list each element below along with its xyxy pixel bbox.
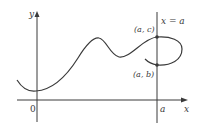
vertical-line-label: x = a <box>161 16 185 26</box>
curve-diagram: y x 0 a x = a (a, c) (a, b) <box>0 0 199 127</box>
x-axis <box>17 98 188 103</box>
point-a-b-label: (a, b) <box>133 70 154 79</box>
point-a-c <box>155 35 159 39</box>
a-tick-label: a <box>160 104 165 114</box>
point-a-c-label: (a, c) <box>134 25 155 34</box>
y-axis-label: y <box>28 9 35 19</box>
x-axis-arrow-icon <box>181 98 188 103</box>
origin-label: 0 <box>30 104 36 114</box>
y-axis-arrow-icon <box>35 11 40 17</box>
x-axis-label: x <box>184 104 189 114</box>
point-a-b <box>155 63 159 67</box>
